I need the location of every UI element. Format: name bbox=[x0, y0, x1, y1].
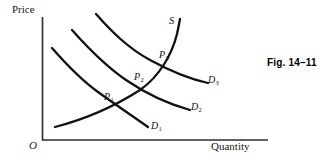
equilibrium-label-p1-subscript: 1 bbox=[110, 96, 113, 103]
demand-curve-label-d2: D2 bbox=[191, 102, 201, 112]
x-axis-label: Quantity bbox=[211, 141, 250, 152]
figure-container: Price Quantity O S D3 D2 D1 P3 P2 P1 Fig… bbox=[0, 0, 331, 159]
equilibrium-label-p1: P1 bbox=[104, 92, 113, 102]
demand-curve-d3 bbox=[96, 14, 208, 83]
demand-curve-label-d3-subscript: 3 bbox=[216, 79, 219, 86]
demand-curve-label-d2-text: D bbox=[191, 101, 198, 112]
equilibrium-label-p2-subscript: 2 bbox=[140, 76, 143, 83]
origin-label: O bbox=[29, 140, 37, 151]
y-axis-label: Price bbox=[12, 4, 35, 15]
demand-curve-label-d3: D3 bbox=[208, 75, 218, 85]
supply-demand-diagram bbox=[0, 0, 331, 159]
demand-curve-label-d1-subscript: 1 bbox=[159, 125, 162, 132]
equilibrium-label-p3: P3 bbox=[159, 50, 168, 60]
supply-curve-label: S bbox=[169, 16, 174, 27]
demand-curve-label-d3-text: D bbox=[208, 74, 215, 85]
equilibrium-label-p3-subscript: 3 bbox=[165, 54, 168, 61]
equilibrium-label-p2: P2 bbox=[134, 72, 143, 82]
demand-curve-label-d1: D1 bbox=[151, 121, 161, 131]
figure-caption: Fig. 14–11 bbox=[267, 58, 317, 68]
demand-curve-label-d1-text: D bbox=[151, 120, 158, 131]
demand-curve-label-d2-subscript: 2 bbox=[199, 106, 202, 113]
